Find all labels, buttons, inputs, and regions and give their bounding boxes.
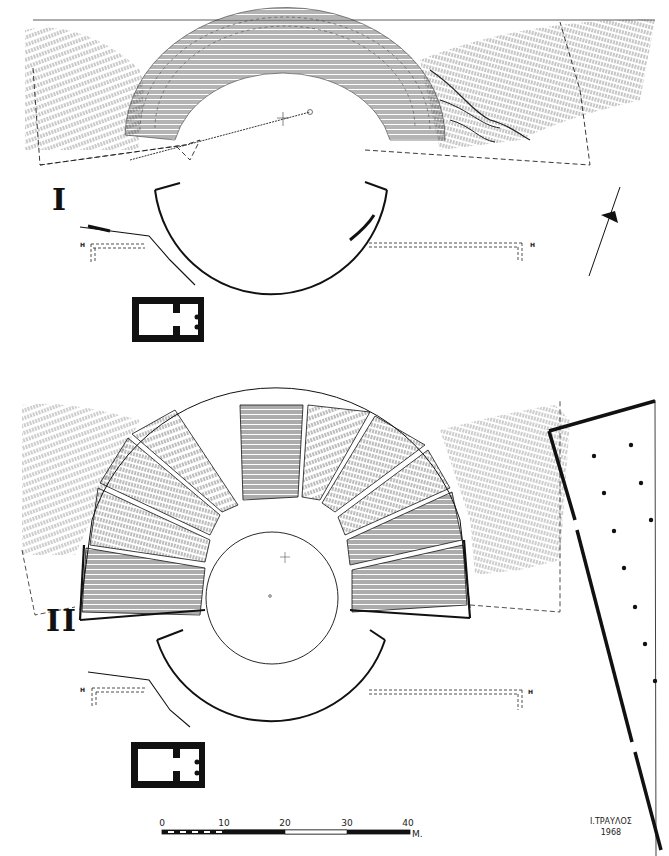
scale-tick-0: 0 — [159, 818, 165, 828]
orchestra-arc-1 — [155, 190, 387, 294]
scale-unit: M. — [412, 829, 423, 839]
scale-tick-30: 30 — [341, 818, 352, 828]
credit-author: Ι.ΤΡΑΥΛΟΣ — [590, 816, 632, 827]
h-marker-left-1: H — [80, 241, 85, 248]
terrain-hachure-right-1 — [420, 19, 655, 150]
retaining-wall-left-1 — [80, 227, 195, 285]
orchestra-circle-2 — [206, 532, 338, 664]
h-marker-right-2: H — [528, 688, 533, 695]
plan-label-1: I — [52, 182, 66, 217]
scale-bar — [162, 830, 410, 834]
cavea-outline-1 — [125, 8, 445, 140]
plan-1 — [25, 8, 655, 342]
scale-tick-40: 40 — [402, 818, 413, 828]
temple-plan-1 — [132, 297, 204, 342]
north-arrow-icon — [589, 187, 620, 276]
h-marker-right-1: H — [530, 241, 535, 248]
temple-plan-2 — [131, 742, 205, 788]
h-marker-left-2: H — [80, 686, 85, 693]
credit: Ι.ΤΡΑΥΛΟΣ 1968 — [590, 816, 632, 838]
credit-year: 1968 — [590, 827, 632, 838]
scale-tick-20: 20 — [279, 818, 290, 828]
plan-2 — [22, 388, 661, 856]
theatre-plan-drawing — [0, 0, 669, 856]
retaining-wall-left-2 — [88, 672, 190, 727]
scale-tick-10: 10 — [218, 818, 229, 828]
plan-label-2: II — [46, 603, 78, 638]
